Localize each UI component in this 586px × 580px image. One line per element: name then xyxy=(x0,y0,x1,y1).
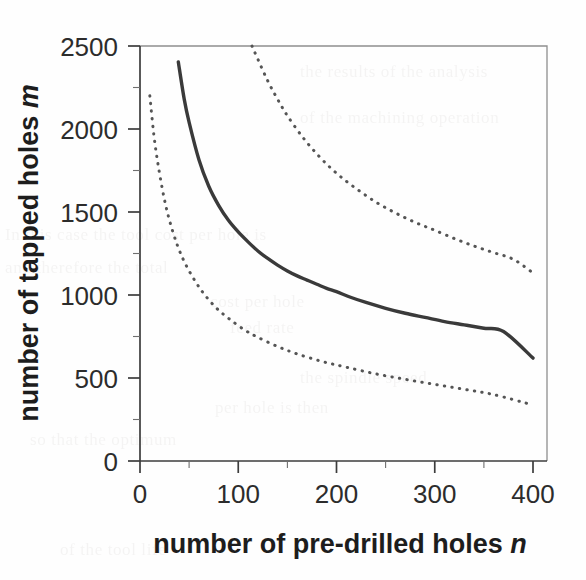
x-tick-label: 200 xyxy=(315,479,358,509)
y-axis-ticks xyxy=(128,46,140,461)
data-series-layer xyxy=(150,46,533,405)
series-curve-dotted-1 xyxy=(252,46,533,273)
y-tick-label: 2000 xyxy=(60,115,118,145)
axes xyxy=(140,46,547,461)
y-axis-title-text: number of tapped holes xyxy=(14,108,44,422)
figure-root: the results of the analysis of the machi… xyxy=(0,0,586,580)
y-tick-label: 1500 xyxy=(60,198,118,228)
x-axis-tick-labels: 0 100 200 300 400 xyxy=(133,479,555,509)
series-curve-solid-0 xyxy=(178,62,533,358)
plot-frame xyxy=(140,46,547,461)
y-tick-label: 0 xyxy=(104,447,118,477)
y-tick-label: 500 xyxy=(75,364,118,394)
x-axis-title: number of pre-drilled holes n xyxy=(153,529,527,559)
x-tick-label: 300 xyxy=(413,479,456,509)
chart-canvas: 2500 2000 1500 1000 500 0 0 100 200 300 … xyxy=(0,0,586,580)
y-tick-label: 1000 xyxy=(60,281,118,311)
series-curve-dotted-2 xyxy=(150,96,533,405)
x-axis-title-variable: n xyxy=(510,529,527,559)
y-axis-title: number of tapped holes m xyxy=(14,84,44,422)
y-axis-tick-labels: 2500 2000 1500 1000 500 0 xyxy=(60,32,118,477)
x-tick-label: 100 xyxy=(217,479,260,509)
y-axis-title-variable: m xyxy=(14,84,44,108)
x-tick-label: 0 xyxy=(133,479,147,509)
x-axis-ticks xyxy=(140,461,533,473)
x-tick-label: 400 xyxy=(511,479,554,509)
x-axis-title-text: number of pre-drilled holes xyxy=(153,529,510,559)
y-tick-label: 2500 xyxy=(60,32,118,62)
